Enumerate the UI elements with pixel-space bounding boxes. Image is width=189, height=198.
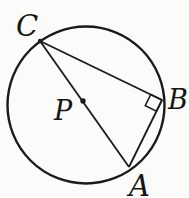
diagram-container: C B A P (0, 0, 189, 198)
point-label-c: C (16, 9, 38, 43)
right-angle-marker (145, 95, 162, 112)
point-label-a: A (126, 169, 150, 198)
center-label-p: P (53, 95, 73, 126)
circle-geometry-diagram: C B A P (0, 0, 189, 198)
point-label-b: B (167, 84, 188, 115)
center-point-dot (80, 98, 85, 103)
vertex-dot-c (38, 39, 42, 43)
segment-c-b (40, 41, 162, 100)
